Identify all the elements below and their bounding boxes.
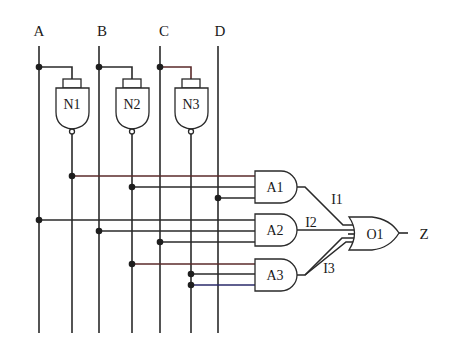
- junction-dot: [96, 64, 103, 71]
- signal-label-i3: I3: [323, 261, 335, 276]
- or-gate-o1: O1: [349, 217, 399, 250]
- gate-label-a2: A2: [266, 223, 283, 238]
- and-gate-a1: A1: [255, 171, 297, 203]
- output-label-z: Z: [419, 226, 428, 242]
- gate-label-n1: N1: [63, 97, 80, 112]
- not-gate-n3: N3: [175, 79, 208, 134]
- wire-a-to-n1: [39, 67, 72, 79]
- and-gate-a3: A3: [255, 259, 297, 291]
- signal-label-i1: I1: [331, 192, 343, 207]
- gate-label-n3: N3: [182, 97, 199, 112]
- signal-label-i2: I2: [305, 215, 317, 230]
- input-label-b: B: [97, 23, 107, 39]
- junction-dot: [157, 64, 164, 71]
- wire-c-to-n3: [160, 67, 191, 79]
- gate-label-n2: N2: [123, 97, 140, 112]
- not-gate-n1: N1: [56, 79, 89, 134]
- input-label-d: D: [215, 23, 226, 39]
- not-gate-n2: N2: [116, 79, 149, 134]
- gate-label-o1: O1: [366, 227, 383, 242]
- logic-circuit-diagram: A B C D N1 N2 N3: [0, 0, 450, 357]
- gate-label-a1: A1: [266, 180, 283, 195]
- gate-label-a3: A3: [266, 268, 283, 283]
- input-label-c: C: [159, 23, 169, 39]
- junction-dot: [36, 64, 43, 71]
- wire-b-to-n2: [99, 67, 132, 79]
- and-gate-a2: A2: [255, 214, 297, 246]
- input-label-a: A: [34, 23, 45, 39]
